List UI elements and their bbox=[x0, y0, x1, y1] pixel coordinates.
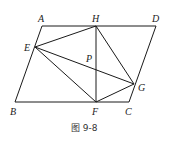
label-g: G bbox=[138, 82, 145, 93]
label-f: F bbox=[91, 106, 99, 117]
segment-hg bbox=[96, 26, 134, 84]
label-h: H bbox=[91, 13, 100, 24]
label-b: B bbox=[10, 106, 16, 117]
label-c: C bbox=[125, 106, 132, 117]
segment-fg bbox=[96, 84, 134, 102]
geometry-figure: A H D E P G B F C 图 9-8 bbox=[0, 0, 169, 150]
label-a: A bbox=[37, 13, 45, 24]
segment-eg bbox=[35, 47, 134, 84]
figure-caption: 图 9-8 bbox=[71, 123, 98, 133]
parallelogram-abcd bbox=[15, 26, 156, 102]
label-e: E bbox=[23, 42, 30, 53]
label-d: D bbox=[151, 13, 160, 24]
label-p: P bbox=[85, 53, 92, 64]
segment-eh bbox=[35, 26, 96, 47]
